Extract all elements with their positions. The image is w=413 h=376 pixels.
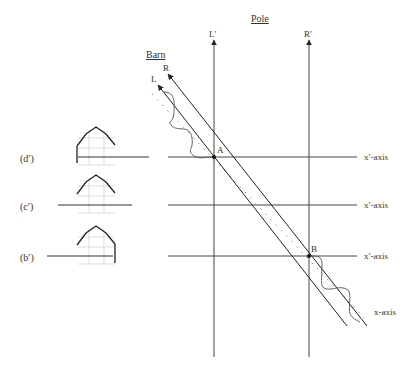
label-B: B <box>311 244 317 254</box>
axis-label-b: x′-axis <box>364 251 388 261</box>
x-prime-axis-d: x′-axis <box>168 152 388 162</box>
frame-label-d: (d′) <box>20 153 34 165</box>
barn-figure-b <box>47 226 115 264</box>
barn-worldline-L: L <box>151 74 347 326</box>
pole-worldline-right: R′ <box>304 29 312 357</box>
x-prime-axis-b: x′-axis <box>168 251 388 261</box>
barn-worldline-R: R <box>163 63 367 326</box>
x-prime-axis-c: x′-axis <box>168 200 388 210</box>
pole-worldline-left: L′ <box>209 29 216 357</box>
label-L: L <box>151 74 157 84</box>
wave-B <box>309 256 360 322</box>
axis-label-c: x′-axis <box>364 200 388 210</box>
barn-figure-d <box>77 127 149 165</box>
axis-label-d: x′-axis <box>364 152 388 162</box>
frame-label-c: (c′) <box>20 201 33 213</box>
x-axis-label: x-axis <box>374 307 396 317</box>
pole-title: Pole <box>251 13 269 24</box>
barn-figure-c <box>58 175 132 213</box>
frame-label-b: (b′) <box>20 252 34 264</box>
pole-barn-diagram: Pole Barn L′ R′ x′-axis x′-axis x′-axis … <box>0 0 413 376</box>
label-A: A <box>217 145 224 155</box>
barn-title: Barn <box>146 49 165 60</box>
label-R: R <box>163 63 169 73</box>
label-R-prime: R′ <box>304 29 312 39</box>
label-L-prime: L′ <box>209 29 216 39</box>
